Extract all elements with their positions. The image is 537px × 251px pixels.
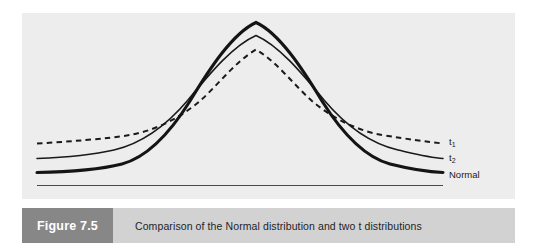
figure-caption-text: Comparison of the Normal distribution an… [135, 220, 422, 232]
legend-label-t1: t1 [449, 137, 456, 147]
legend-label-normal: Normal [449, 170, 480, 180]
figure-caption-text-wrap: Comparison of the Normal distribution an… [113, 208, 515, 243]
legend-label-t1-sub: 1 [452, 141, 456, 148]
curve-t2-solid-thin [37, 36, 443, 159]
legend-label-t2-sub: 2 [452, 157, 456, 164]
figure-number-box: Figure 7.5 [22, 208, 113, 243]
legend-label-t2: t2 [449, 153, 456, 163]
curve-t1-dashed [37, 50, 443, 144]
legend-label-normal-text: Normal [449, 169, 480, 180]
figure-container: t1 t2 Normal Figure 7.5 Comparison of th… [0, 0, 537, 251]
figure-caption-bar: Figure 7.5 Comparison of the Normal dist… [22, 208, 515, 243]
figure-number-label: Figure 7.5 [37, 219, 98, 233]
